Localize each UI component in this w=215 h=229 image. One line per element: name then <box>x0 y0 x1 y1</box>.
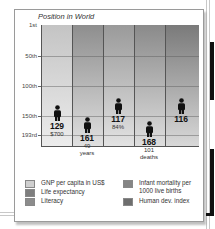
indicator-value: 49 <box>71 143 103 150</box>
indicator-value: 101 <box>133 147 165 154</box>
person-icon <box>177 98 186 114</box>
left-rule-1 <box>0 212 14 213</box>
legend-item-gnp: GNP per capita in US$ <box>25 179 105 188</box>
chart-frame: Position in World 1st 50th 100th 150th 1… <box>14 9 204 222</box>
legend-label: Literacy <box>41 197 63 205</box>
marker-literacy: 117 84% <box>102 98 134 131</box>
indicator-unit: deaths <box>133 154 165 161</box>
marker-infant-mortality: 168 101 deaths <box>133 121 165 161</box>
plot-area: 129 $700 161 49 years 117 84% 168 101 de… <box>41 25 199 147</box>
black-bar-bottom <box>210 149 214 216</box>
marker-life-expectancy: 161 49 years <box>71 117 103 157</box>
legend-label: Human dev. index <box>139 197 189 205</box>
y-tick-label: 150th <box>15 113 37 119</box>
indicator-value: 84% <box>102 124 134 131</box>
indicator-value: $700 <box>41 131 73 138</box>
black-bar-top <box>210 42 214 100</box>
rank-value: 168 <box>133 138 165 147</box>
person-icon <box>114 98 123 114</box>
legend-label-line2: 1000 live births <box>139 187 181 194</box>
legend-swatch <box>25 198 35 206</box>
legend-label: Infant mortality per <box>139 179 191 186</box>
legend-item-infant-mortality: Infant mortality per 1000 live births <box>123 179 191 195</box>
legend-label: Life expectancy <box>41 188 85 196</box>
rail-line-inner <box>206 0 207 229</box>
legend-swatch <box>25 189 35 197</box>
person-icon <box>145 121 154 137</box>
person-icon <box>53 105 62 121</box>
gridline-100th <box>41 86 199 87</box>
legend-item-literacy: Literacy <box>25 197 63 206</box>
legend-item-human-dev-index: Human dev. index <box>123 197 189 206</box>
left-rule-2 <box>0 215 14 216</box>
marker-human-dev-index: 116 <box>165 98 197 124</box>
person-icon <box>83 117 92 133</box>
black-bar-foot <box>206 213 214 216</box>
y-tick-label: 100th <box>15 83 37 89</box>
y-tick-label: 50th <box>15 53 37 59</box>
rank-value: 129 <box>41 122 73 131</box>
y-tick-label: 193rd <box>15 132 37 138</box>
legend-swatch <box>123 180 133 188</box>
marker-gnp: 129 $700 <box>41 105 73 138</box>
legend-item-life-expectancy: Life expectancy <box>25 188 85 197</box>
legend-swatch <box>123 198 133 206</box>
indicator-unit: years <box>71 150 103 157</box>
gridline-50th <box>41 56 199 57</box>
legend-swatch <box>25 180 35 188</box>
rank-value: 117 <box>102 115 134 124</box>
rank-value: 116 <box>165 115 197 124</box>
legend-label-wrap: Infant mortality per 1000 live births <box>139 179 191 195</box>
legend-label: GNP per capita in US$ <box>41 179 105 187</box>
rank-value: 161 <box>71 134 103 143</box>
y-tick-label: 1st <box>15 22 37 28</box>
chart-title: Position in World <box>38 12 94 21</box>
